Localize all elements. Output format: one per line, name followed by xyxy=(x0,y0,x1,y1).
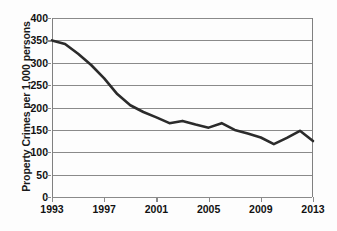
x-tick-mark-2009 xyxy=(261,197,262,202)
y-tick-mark-400 xyxy=(46,18,51,19)
y-tick-mark-350 xyxy=(46,40,51,41)
y-tick-label-300: 300 xyxy=(16,57,48,69)
x-tick-label-2001: 2001 xyxy=(134,203,178,215)
x-tick-mark-2001 xyxy=(156,197,157,202)
series-line-property-crimes xyxy=(52,18,313,197)
x-tick-label-2005: 2005 xyxy=(187,203,231,215)
x-tick-mark-2005 xyxy=(209,197,210,202)
x-tick-label-2009: 2009 xyxy=(239,203,283,215)
y-tick-label-100: 100 xyxy=(16,146,48,158)
x-axis-ticks: 199319972001200520092013 xyxy=(52,197,313,231)
y-tick-label-50: 50 xyxy=(16,169,48,181)
y-tick-label-200: 200 xyxy=(16,102,48,114)
x-tick-label-1997: 1997 xyxy=(82,203,126,215)
y-tick-mark-150 xyxy=(46,130,51,131)
y-tick-label-0: 0 xyxy=(16,191,48,203)
y-axis-ticks: 050100150200250300350400 xyxy=(8,18,48,197)
y-tick-mark-200 xyxy=(46,108,51,109)
y-tick-mark-250 xyxy=(46,85,51,86)
y-tick-mark-0 xyxy=(46,197,51,198)
x-tick-mark-1993 xyxy=(52,197,53,202)
property-crimes-line-chart: Property Crimes per 1,000 persons 050100… xyxy=(0,0,337,231)
x-tick-label-2013: 2013 xyxy=(291,203,335,215)
x-tick-mark-2013 xyxy=(313,197,314,202)
x-tick-label-1993: 1993 xyxy=(30,203,74,215)
y-tick-mark-100 xyxy=(46,152,51,153)
y-tick-mark-50 xyxy=(46,175,51,176)
y-tick-label-250: 250 xyxy=(16,79,48,91)
y-tick-label-150: 150 xyxy=(16,124,48,136)
y-tick-label-400: 400 xyxy=(16,12,48,24)
y-tick-mark-300 xyxy=(46,63,51,64)
y-tick-label-350: 350 xyxy=(16,34,48,46)
x-tick-mark-1997 xyxy=(104,197,105,202)
